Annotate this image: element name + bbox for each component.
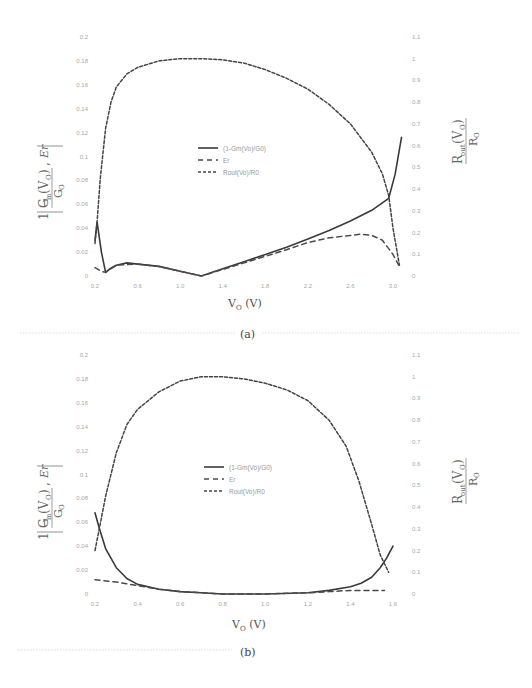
svg-text:0.8: 0.8 xyxy=(412,417,421,423)
svg-text:1: 1 xyxy=(412,374,416,380)
plot-area-a xyxy=(95,59,402,276)
svg-text:1.8: 1.8 xyxy=(261,283,270,289)
series-rout-vo-r0 xyxy=(95,59,399,265)
svg-text:1 −: 1 − xyxy=(37,518,51,540)
svg-text:0.1: 0.1 xyxy=(412,569,421,575)
series-rout-vo-r0 xyxy=(95,377,389,573)
svg-text:O: O xyxy=(58,504,66,510)
figure: 00.020.040.060.080.10.120.140.160.180.2 … xyxy=(0,0,532,688)
svg-text:): ) xyxy=(451,459,465,464)
svg-text:0.06: 0.06 xyxy=(76,201,88,207)
svg-text:0.4: 0.4 xyxy=(133,601,142,607)
svg-text:0.9: 0.9 xyxy=(412,395,421,401)
svg-text:Rout(Vo)/R0: Rout(Vo)/R0 xyxy=(229,488,265,496)
svg-text:0: 0 xyxy=(85,273,89,279)
svg-text:Rout(Vo)/R0: Rout(Vo)/R0 xyxy=(223,169,259,177)
svg-text:(1-Gm(Vo)/G0): (1-Gm(Vo)/G0) xyxy=(229,464,272,472)
chart-panel-a: 00.020.040.060.080.10.120.140.160.180.2 … xyxy=(20,34,520,341)
svg-text:0.08: 0.08 xyxy=(76,495,88,501)
svg-text:0.4: 0.4 xyxy=(412,186,421,192)
svg-text:0.16: 0.16 xyxy=(76,82,88,88)
svg-text:0.5: 0.5 xyxy=(412,482,421,488)
svg-text:0.14: 0.14 xyxy=(76,106,88,112)
svg-text:,: , xyxy=(37,162,51,166)
svg-text:0: 0 xyxy=(412,273,416,279)
svg-text:0.6: 0.6 xyxy=(133,283,142,289)
svg-text:(1-Gm(Vo)/G0): (1-Gm(Vo)/G0) xyxy=(223,145,266,153)
svg-text:0.6: 0.6 xyxy=(176,601,185,607)
svg-text:1.1: 1.1 xyxy=(412,352,421,358)
svg-text:1 −: 1 − xyxy=(37,198,51,220)
svg-text:1.1: 1.1 xyxy=(412,34,421,40)
svg-text:0.12: 0.12 xyxy=(76,448,88,454)
svg-text:0.02: 0.02 xyxy=(76,249,88,255)
svg-text:0.7: 0.7 xyxy=(412,121,421,127)
svg-text:0.14: 0.14 xyxy=(76,424,88,430)
svg-text:0.16: 0.16 xyxy=(76,400,88,406)
svg-text:VO (V): VO (V) xyxy=(227,297,262,312)
y-axis-label-right-a: R out (V O ) R O xyxy=(451,118,481,164)
svg-text:1: 1 xyxy=(412,56,416,62)
svg-text:0.02: 0.02 xyxy=(76,567,88,573)
svg-text:VO (V): VO (V) xyxy=(231,618,266,633)
svg-text:(V: (V xyxy=(451,130,465,144)
svg-text:1.0: 1.0 xyxy=(176,283,185,289)
chart-panel-b: 00.020.040.060.080.10.120.140.160.180.2 … xyxy=(18,352,481,659)
y-axis-label-left-a: G m (V O ) G O , Er 1 − xyxy=(37,144,66,220)
svg-text:0.2: 0.2 xyxy=(412,230,421,236)
svg-text:Er: Er xyxy=(223,157,230,164)
svg-text:1.4: 1.4 xyxy=(346,601,355,607)
svg-text:0.04: 0.04 xyxy=(76,543,88,549)
y-axis-label-right-b: R out (V O ) R O xyxy=(451,458,481,504)
svg-text:0.3: 0.3 xyxy=(412,208,421,214)
svg-text:0.4: 0.4 xyxy=(412,504,421,510)
svg-text:0.18: 0.18 xyxy=(76,376,88,382)
series-1-gm-vo-g0 xyxy=(95,137,402,276)
svg-text:0.2: 0.2 xyxy=(91,601,100,607)
svg-text:0.2: 0.2 xyxy=(412,548,421,554)
caption-a: (a) xyxy=(240,328,255,341)
svg-text:1.0: 1.0 xyxy=(261,601,270,607)
x-axis-label-b: VO (V) xyxy=(231,618,266,633)
legend-b: (1-Gm(Vo)/G0)ErRout(Vo)/R0 xyxy=(204,464,272,496)
series-1-gm-vo-g0 xyxy=(95,513,393,594)
y-axis-label-left-b: G m (V O ) G O , Er 1 − xyxy=(37,464,66,540)
svg-text:0.2: 0.2 xyxy=(91,283,100,289)
svg-text:1.4: 1.4 xyxy=(219,283,228,289)
svg-text:2.6: 2.6 xyxy=(346,283,355,289)
y-axis-right-a: 00.10.20.30.40.50.60.70.80.911.1 xyxy=(412,34,421,279)
svg-text:0.08: 0.08 xyxy=(76,177,88,183)
svg-text:0.2: 0.2 xyxy=(80,352,89,358)
x-axis-label-a: VO (V) xyxy=(227,297,262,312)
series-er xyxy=(95,580,385,594)
svg-text:0.6: 0.6 xyxy=(412,143,421,149)
svg-text:0.3: 0.3 xyxy=(412,526,421,532)
svg-text:): ) xyxy=(37,169,51,174)
plot-area-b xyxy=(95,377,393,594)
svg-text:(V: (V xyxy=(37,500,51,514)
svg-text:,: , xyxy=(37,482,51,486)
svg-text:0.12: 0.12 xyxy=(76,130,88,136)
svg-text:0: 0 xyxy=(412,591,416,597)
svg-text:0.1: 0.1 xyxy=(412,251,421,257)
y-axis-left-b: 00.020.040.060.080.10.120.140.160.180.2 xyxy=(76,352,88,597)
svg-text:3.0: 3.0 xyxy=(389,283,398,289)
svg-text:1.6: 1.6 xyxy=(389,601,398,607)
svg-text:0.6: 0.6 xyxy=(412,461,421,467)
x-axis-b: 0.20.40.60.81.01.21.41.6 xyxy=(91,601,398,607)
svg-text:0.1: 0.1 xyxy=(80,472,89,478)
svg-text:0.1: 0.1 xyxy=(80,154,89,160)
svg-text:0.7: 0.7 xyxy=(412,439,421,445)
series-er xyxy=(95,234,399,276)
svg-text:O: O xyxy=(58,184,66,190)
legend-a: (1-Gm(Vo)/G0)ErRout(Vo)/R0 xyxy=(198,145,266,177)
svg-text:2.2: 2.2 xyxy=(304,283,313,289)
svg-text:0: 0 xyxy=(85,591,89,597)
svg-text:O: O xyxy=(473,132,481,138)
svg-text:(V: (V xyxy=(451,470,465,484)
svg-text:0.8: 0.8 xyxy=(412,99,421,105)
caption-b: (b) xyxy=(240,646,256,659)
svg-text:0.04: 0.04 xyxy=(76,225,88,231)
svg-text:): ) xyxy=(451,119,465,124)
svg-text:0.8: 0.8 xyxy=(219,601,228,607)
